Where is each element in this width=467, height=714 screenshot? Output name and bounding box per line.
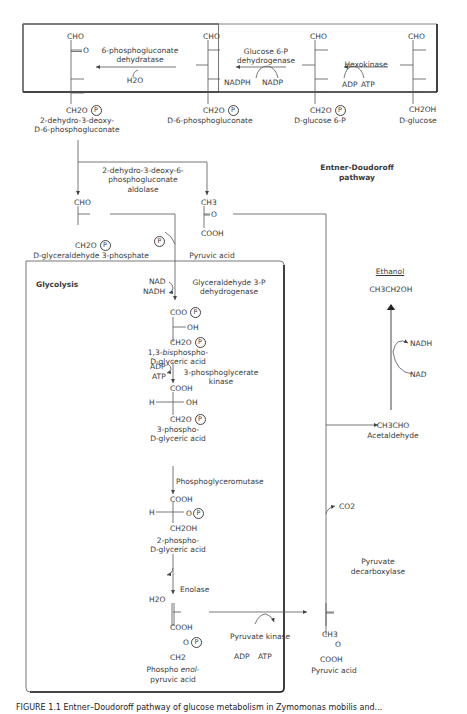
glucose-label: D-glucose <box>399 116 436 125</box>
acetaldehyde-label: Acetaldehyde <box>367 431 418 440</box>
bpg-coo: COOP <box>170 307 201 318</box>
gapdh-label-2: dehydrogenase <box>200 287 258 296</box>
pg2-label-2: D-glyceric acid <box>150 545 206 554</box>
pg2-ch2oh: CH2OH <box>170 524 197 533</box>
acetaldehyde-formula: CH3CHO <box>377 421 409 430</box>
kdpg-label-2: D-6-phosphogluconate <box>34 125 119 134</box>
aldolase-label-1: 2-dehydro-3-deoxy-6- <box>102 166 183 175</box>
pep-label-2: pyruvic acid <box>150 675 196 684</box>
ed-nadph: NADPH <box>224 78 251 87</box>
kdpg-ch2o: CH2OP <box>66 105 102 116</box>
pk-label: Pyruvate kinase <box>230 632 290 641</box>
gly-atp: ATP <box>152 372 166 381</box>
gly-nad: NAD <box>149 277 166 286</box>
pg3-oh: OH <box>186 398 198 407</box>
phosphate-icon: P <box>191 637 202 648</box>
pg2-o: OP <box>186 508 204 519</box>
kdpg-label-1: 2-dehydro-3-deoxy- <box>40 116 114 125</box>
g6pdh-label-1: Glucose 6-P <box>244 47 288 56</box>
pyr1-cooh: COOH <box>201 229 224 238</box>
pg3-label-1: 3-phospho- <box>157 425 199 434</box>
pg2-label-1: 2-phospho- <box>157 536 199 545</box>
phosphate-icon: P <box>228 105 239 116</box>
pep-ch2: CH2 <box>170 653 186 662</box>
hexokinase-label: Hexokinase <box>344 60 387 69</box>
pep-o: OP <box>183 637 202 648</box>
glucose-6p-label: D-glucose 6-P <box>294 116 346 125</box>
pyruvic-acid-label-2: Pyruvic acid <box>311 666 356 675</box>
g3p-cho: CHO <box>74 198 91 207</box>
pyr2-cooh: COOH <box>320 655 343 664</box>
ed-h2o: H2O <box>127 76 143 85</box>
ed-title-1: Entner-Doudoroff <box>320 163 393 172</box>
bpg-oh: OH <box>187 323 199 332</box>
gly-adp: ADP <box>150 362 165 371</box>
decarboxylase-label-1: Pyruvate <box>361 557 394 566</box>
phosphate-icon: P <box>190 307 201 318</box>
pg3-h: H <box>149 398 155 407</box>
glucose-cho: CHO <box>408 32 425 41</box>
ed-title-2: pathway <box>339 173 375 182</box>
dehydratase-label-2: dehydratase <box>116 55 163 64</box>
g6p-ch2o: CH2OP <box>310 105 346 116</box>
pgluc-cho: CHO <box>203 32 220 41</box>
gly-h2o: H2O <box>149 595 165 604</box>
pyr2-ch3: CH3 <box>322 630 338 639</box>
pk-atp: ATP <box>258 652 272 661</box>
g6p-cho: CHO <box>310 32 327 41</box>
co2-label: CO2 <box>339 502 355 511</box>
pg3-cooh: COOH <box>170 384 193 393</box>
aldolase-label-2: phosphogluconate <box>108 175 177 184</box>
bpg-ch2o: CH2OP <box>170 337 206 348</box>
ed-nadp: NADP <box>262 78 283 87</box>
figure-caption: FIGURE 1.1 Entner–Doudoroff pathway of g… <box>16 703 382 712</box>
pgk-label-2: kinase <box>209 377 233 386</box>
ethanol-formula: CH3CH2OH <box>370 285 413 294</box>
pgm-label: Phosphoglyceromutase <box>176 477 264 486</box>
phosphogluconate-label: D-6-phosphogluconate <box>167 116 252 125</box>
phosphate-icon: P <box>100 240 111 251</box>
kdpg-cho: CHO <box>67 32 84 41</box>
g6pdh-label-2: dehydrogenase <box>237 56 295 65</box>
bpg-label-1: 1,3-bisphospho- <box>148 348 208 357</box>
kdpg-keto-o: O <box>83 46 89 55</box>
ferm-nad: NAD <box>410 370 427 379</box>
pyr1-o: O <box>211 210 217 219</box>
pgluc-ch2o: CH2OP <box>203 105 239 116</box>
g3p-phosphate: P <box>154 236 165 247</box>
pg2-h: H <box>149 508 155 517</box>
phosphate-icon: P <box>154 236 165 247</box>
gapdh-label-1: Glyceraldehyde 3-P <box>192 278 265 287</box>
pg3-label-2: D-glyceric acid <box>150 434 206 443</box>
aldolase-label-3: aldolase <box>127 185 158 194</box>
ferm-nadh: NADH <box>410 339 432 348</box>
decarboxylase-label-2: decarboxylase <box>351 567 405 576</box>
g3p-ch2o: CH2OP <box>75 240 111 251</box>
dehydratase-label-1: 6-phosphogluconate <box>102 46 179 55</box>
pg2-cooh: COOH <box>170 495 193 504</box>
phosphate-icon: P <box>91 105 102 116</box>
gly-nadh: NADH <box>143 287 165 296</box>
pyruvic-acid-label-1: Pyruvic acid <box>189 251 234 260</box>
glucose-ch2oh: CH2OH <box>409 105 436 114</box>
enolase-label: Enolase <box>180 585 209 594</box>
pg3-ch2o: CH2OP <box>170 414 206 425</box>
pyr1-ch3: CH3 <box>201 198 217 207</box>
pep-label-1: Phospho enol- <box>146 665 199 674</box>
ed-adp: ADP <box>342 80 357 89</box>
glycolysis-title: Glycolysis <box>36 280 78 289</box>
ethanol-label: Ethanol <box>376 267 404 276</box>
pgk-label-1: 3-phosphoglycerate <box>184 368 259 377</box>
phosphate-icon: P <box>195 337 206 348</box>
pk-adp: ADP <box>234 652 249 661</box>
pyr2-o: O <box>335 640 341 649</box>
phosphate-icon: P <box>335 105 346 116</box>
g3p-label: D-glyceraldehyde 3-phosphate <box>33 251 149 260</box>
pep-cooh: COOH <box>170 623 193 632</box>
phosphate-icon: P <box>195 414 206 425</box>
phosphate-icon: P <box>193 508 204 519</box>
ed-atp: ATP <box>361 80 375 89</box>
